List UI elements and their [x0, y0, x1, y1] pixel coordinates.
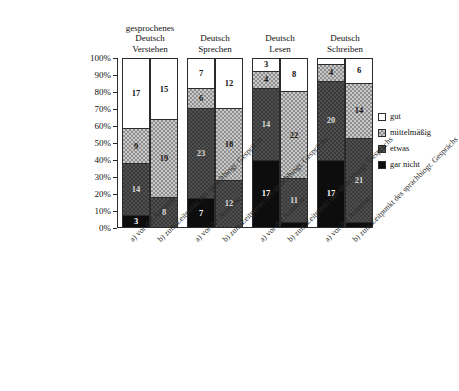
legend-swatch-icon [378, 113, 386, 121]
segment-value-label: 22 [290, 131, 299, 140]
y-axis-tick-label: 60% [95, 122, 112, 131]
y-axis-tick [113, 109, 117, 110]
y-axis-tick [113, 160, 117, 161]
legend-label: etwas [390, 142, 409, 155]
legend-item-gut[interactable]: gut [378, 110, 431, 123]
y-axis-tick-label: 100% [90, 54, 111, 63]
group-title-1: gesprochenesDeutschVerstehen [116, 23, 184, 55]
bar-segment-mittelmäßig: 6 [188, 88, 214, 108]
segment-value-label: 14 [132, 185, 141, 194]
group-title-4: DeutschSchreiben [311, 33, 379, 54]
bar-segment-gut: 7 [188, 59, 214, 88]
legend-swatch-icon [378, 161, 386, 169]
y-axis-tick-label: 80% [95, 88, 112, 97]
y-axis-tick-label: 40% [95, 156, 112, 165]
y-axis-tick-label: 30% [95, 173, 112, 182]
bar-segment-gut: 17 [123, 59, 149, 128]
legend-label: gut [390, 110, 401, 123]
segment-value-label: 8 [162, 208, 166, 217]
segment-value-label: 14 [262, 120, 271, 129]
stacked-bar[interactable]: 179143 [122, 58, 150, 228]
segment-value-label: 15 [160, 85, 169, 94]
segment-value-label: 12 [225, 199, 234, 208]
segment-value-label: 12 [225, 79, 234, 88]
y-axis-tick [113, 143, 117, 144]
bar-segment-gut: 8 [281, 59, 307, 91]
segment-value-label: 8 [292, 70, 296, 79]
y-axis-tick [113, 194, 117, 195]
y-axis-tick-label: 20% [95, 190, 112, 199]
bar-segment-mittelmäßig: 19 [151, 119, 177, 196]
x-axis-labels: a) vor der Ausreiseb) zum Zeitpunkt des … [0, 228, 459, 388]
segment-value-label: 23 [197, 149, 206, 158]
segment-value-label: 3 [134, 217, 138, 226]
segment-value-label: 7 [199, 209, 203, 218]
y-axis-tick [113, 92, 117, 93]
segment-value-label: 3 [264, 60, 268, 69]
bar-segment-mittelmäßig: 4 [253, 71, 279, 88]
segment-value-label: 6 [199, 94, 203, 103]
y-axis-tick [113, 177, 117, 178]
y-axis-line [117, 58, 118, 228]
segment-value-label: 17 [262, 189, 271, 198]
y-axis-tick-label: 10% [95, 207, 112, 216]
legend-label: gar nicht [390, 158, 420, 171]
segment-value-label: 18 [225, 140, 234, 149]
group-titles: gesprochenesDeutschVerstehenDeutschSprec… [0, 0, 459, 56]
group-title-3: DeutschLesen [246, 33, 314, 54]
segment-value-label: 4 [329, 68, 333, 77]
bar-segment-mittelmäßig: 14 [346, 83, 372, 138]
segment-value-label: 9 [134, 142, 138, 151]
y-axis-tick-label: 70% [95, 105, 112, 114]
segment-value-label: 7 [199, 69, 203, 78]
chart-plot-area: 100%90%80%70%60%50%40%30%20%10%0% 179143… [117, 58, 372, 228]
segment-value-label: 17 [132, 89, 141, 98]
segment-value-label: 19 [160, 154, 169, 163]
bar-segment-gut: 12 [216, 59, 242, 108]
legend-label: mittelmäßig [390, 126, 431, 139]
group-title-2: DeutschSprechen [181, 33, 249, 54]
segment-value-label: 6 [357, 66, 361, 75]
segment-value-label: 20 [327, 116, 336, 125]
legend-swatch-icon [378, 129, 386, 137]
bar-segment-gut: 15 [151, 59, 177, 119]
y-axis-tick [113, 211, 117, 212]
segment-value-label: 4 [264, 75, 268, 84]
bar-segment-mittelmäßig: 9 [123, 128, 149, 163]
bar-segment-gut: 6 [346, 59, 372, 83]
bar-segment-etwas: 14 [123, 163, 149, 215]
segment-value-label: 14 [355, 106, 364, 115]
segment-value-label: 21 [355, 176, 364, 185]
y-axis-tick-label: 50% [95, 139, 112, 148]
bar-segment-gut: 3 [253, 59, 279, 71]
y-axis-tick [113, 126, 117, 127]
segment-value-label: 17 [327, 189, 336, 198]
y-axis-tick [113, 58, 117, 59]
segment-value-label: 11 [290, 196, 298, 205]
y-axis-tick [113, 75, 117, 76]
bar-segment-mittelmäßig: 4 [318, 64, 344, 81]
y-axis-tick-label: 90% [95, 71, 112, 80]
